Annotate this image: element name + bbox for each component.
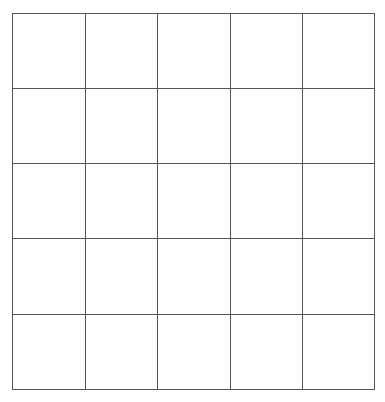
grid-cell-r2-c3	[157, 88, 230, 163]
grid-cell-r4-c3	[157, 238, 230, 314]
grid-cell-r5-c3	[157, 314, 230, 389]
grid-cell-r3-c4	[230, 163, 302, 238]
grid-cell-r1-c3	[157, 13, 230, 88]
grid-cell-r1-c1	[12, 13, 85, 88]
grid-cells	[12, 13, 374, 389]
grid-cell-r3-c3	[157, 163, 230, 238]
grid-cell-r4-c1	[12, 238, 85, 314]
grid-cell-r5-c5	[302, 314, 374, 389]
grid-cell-r4-c5	[302, 238, 374, 314]
grid-diagram	[0, 0, 385, 402]
grid-cell-r1-c5	[302, 13, 374, 88]
grid-cell-r1-c2	[85, 13, 157, 88]
grid-cell-r2-c5	[302, 88, 374, 163]
grid-cell-r3-c5	[302, 163, 374, 238]
grid-cell-r5-c1	[12, 314, 85, 389]
grid-cell-r3-c1	[12, 163, 85, 238]
grid-cell-r4-c2	[85, 238, 157, 314]
grid-cell-r5-c4	[230, 314, 302, 389]
grid-cell-r2-c2	[85, 88, 157, 163]
grid-cell-r4-c4	[230, 238, 302, 314]
grid-cell-r2-c1	[12, 88, 85, 163]
grid-cell-r1-c4	[230, 13, 302, 88]
grid-cell-r2-c4	[230, 88, 302, 163]
grid-cell-r5-c2	[85, 314, 157, 389]
grid-cell-r3-c2	[85, 163, 157, 238]
